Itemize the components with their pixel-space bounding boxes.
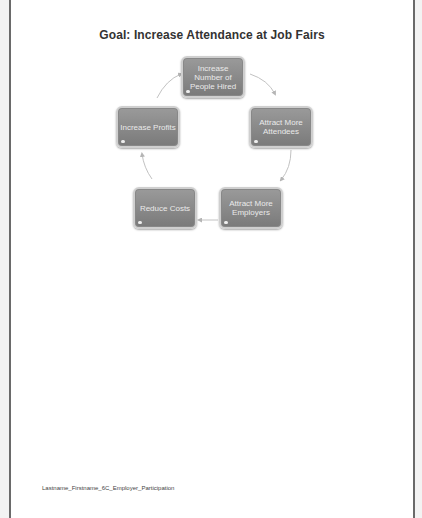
- cycle-arrows: [11, 0, 417, 298]
- node-label: Attract More Attendees: [253, 118, 309, 136]
- cycle-node-people-hired: Increase Number of People Hired: [181, 56, 245, 98]
- gloss-icon: [186, 90, 190, 93]
- cycle-node-attract-employers: Attract More Employers: [219, 187, 283, 229]
- gloss-icon: [224, 221, 228, 224]
- document-page: Goal: Increase Attendance at Job Fairs I…: [9, 0, 415, 518]
- node-label: Increase Number of People Hired: [185, 64, 241, 91]
- cycle-node-attract-attendees: Attract More Attendees: [249, 106, 313, 148]
- gloss-icon: [138, 221, 142, 224]
- node-label: Attract More Employers: [223, 199, 279, 217]
- node-label: Reduce Costs: [140, 204, 190, 213]
- footer-filename: Lastname_Firstname_6C_Employer_Participa…: [42, 485, 174, 491]
- gloss-icon: [254, 140, 258, 143]
- cycle-node-reduce-costs: Reduce Costs: [133, 187, 197, 229]
- gloss-icon: [121, 140, 125, 143]
- node-label: Increase Profits: [120, 123, 176, 132]
- cycle-node-increase-profits: Increase Profits: [116, 106, 180, 148]
